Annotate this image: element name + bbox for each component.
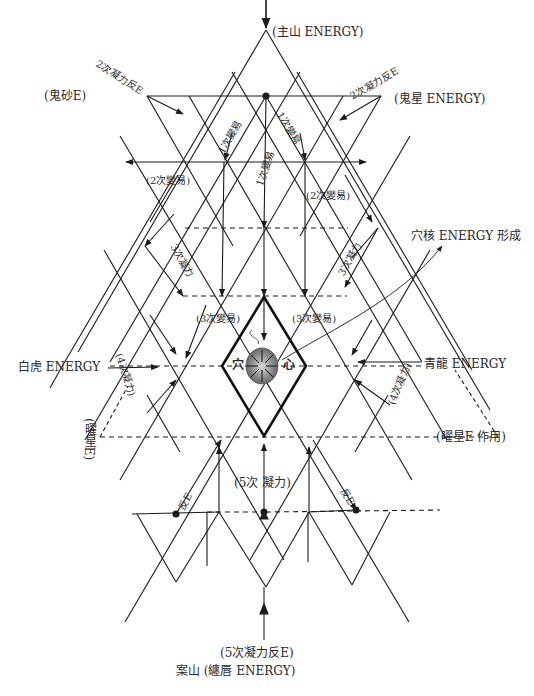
label-desk-mountain: 案山 (纏唇 ENERGY) bbox=[176, 664, 295, 678]
label-white-tiger: 白虎 ENERGY bbox=[18, 360, 100, 374]
label-yao-star-left: (曜星E) bbox=[82, 418, 96, 460]
label-core-energy-formation: 穴核 ENERGY 形成 bbox=[411, 229, 521, 243]
label-core-right: 心 bbox=[283, 358, 295, 372]
label-yao-star-right: (曜星E 作用) bbox=[436, 430, 506, 444]
label-ghost-sand: (鬼砂E) bbox=[44, 89, 86, 103]
label-core-left: 穴 bbox=[232, 358, 244, 372]
label-secondary-change-left: (2次變易) bbox=[146, 175, 190, 187]
label-azure-dragon: 青龍 ENERGY bbox=[424, 357, 506, 371]
label-fifth-force: (5次 凝力) bbox=[234, 476, 291, 490]
label-fifth-reverse: (5次凝力反E) bbox=[220, 646, 294, 660]
label-ghost-star: (鬼星 ENERGY) bbox=[394, 92, 486, 106]
label-secondary-change-right: (2次變易) bbox=[306, 190, 350, 202]
core-oval bbox=[246, 330, 278, 384]
label-tertiary-change-right: (3次變易) bbox=[292, 313, 336, 325]
label-main-mountain: (主山 ENERGY) bbox=[272, 25, 364, 39]
label-tertiary-change-left: (3次變易) bbox=[196, 313, 240, 325]
